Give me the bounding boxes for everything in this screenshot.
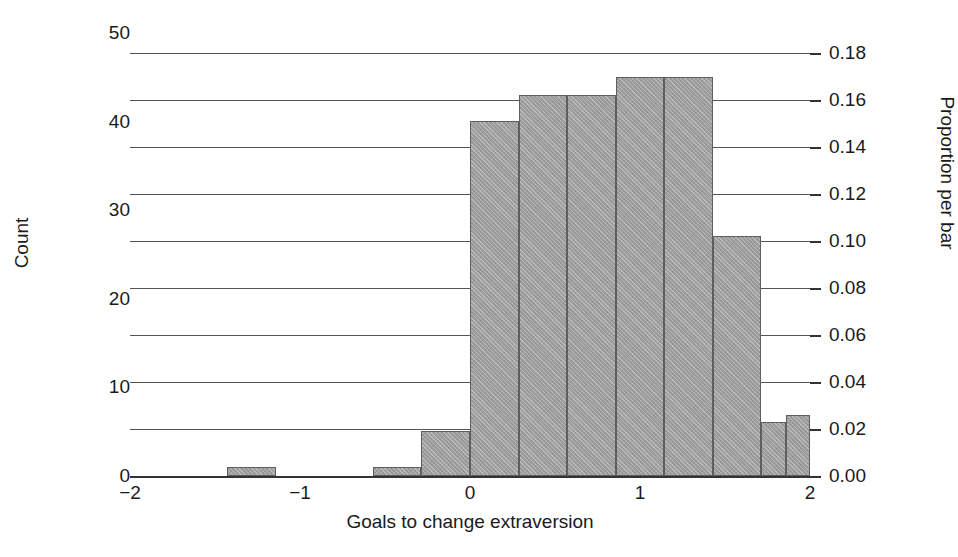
x-axis-tick-label: −1: [270, 482, 330, 504]
y-axis-left-tick-label: 30: [76, 200, 130, 219]
y-axis-right-tick-label: 0.04: [829, 372, 866, 391]
x-axis-tick-label: 1: [610, 482, 670, 504]
y-axis-right-tick-label: 0.10: [829, 231, 866, 250]
histogram-bar: [567, 95, 616, 476]
x-axis-tick-label: −2: [100, 482, 160, 504]
histogram-bar: [761, 422, 785, 476]
histogram-bar: [227, 467, 276, 476]
histogram-bar: [519, 95, 567, 476]
y-axis-left-tick-label: 20: [76, 289, 130, 308]
y-axis-left-tick-label: 10: [76, 377, 130, 396]
y-axis-right-tick-label: 0.18: [829, 43, 866, 62]
y-axis-right-title: Proportion per bar: [936, 58, 958, 288]
y-axis-right-tick-label: 0.08: [829, 278, 866, 297]
gridline: [130, 53, 810, 54]
y-axis-right-tick-mark: [810, 382, 821, 384]
y-axis-left-title: Count: [11, 183, 33, 303]
y-axis-right-tick-mark: [810, 335, 821, 337]
y-axis-left-tick-label: 40: [76, 112, 130, 131]
histogram-bar: [470, 121, 519, 476]
y-axis-left-tick-label: 50: [76, 23, 130, 42]
y-axis-right-tick-label: 0.06: [829, 325, 866, 344]
y-axis-right-tick-mark: [810, 194, 821, 196]
y-axis-right-tick-mark: [810, 476, 821, 478]
y-axis-right-tick-mark: [810, 53, 821, 55]
y-axis-right-tick-label: 0.16: [829, 90, 866, 109]
y-axis-right-tick-mark: [810, 288, 821, 290]
x-axis-line: [130, 476, 810, 478]
y-axis-right-tick-label: 0.12: [829, 184, 866, 203]
histogram-bar: [664, 77, 713, 477]
x-axis-tick-label: 2: [780, 482, 840, 504]
x-axis-tick-label: 0: [440, 482, 500, 504]
histogram-bar: [616, 77, 665, 477]
y-axis-right: 0.000.020.040.060.080.100.120.140.160.18: [810, 0, 940, 557]
y-axis-right-tick-label: 0.02: [829, 419, 866, 438]
x-axis-title: Goals to change extraversion: [130, 511, 810, 533]
y-axis-right-tick-mark: [810, 100, 821, 102]
histogram-bar: [421, 431, 470, 476]
histogram-bar: [373, 467, 421, 476]
histogram-bar: [713, 236, 761, 476]
y-axis-right-tick-mark: [810, 429, 821, 431]
y-axis-right-tick-mark: [810, 147, 821, 149]
y-axis-right-tick-label: 0.14: [829, 137, 866, 156]
histogram-bar: [786, 415, 810, 476]
y-axis-right-tick-mark: [810, 241, 821, 243]
